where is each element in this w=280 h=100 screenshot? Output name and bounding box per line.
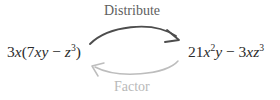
algebra-cycle-diagram: 3x(7xy − z3) 21x2y − 3xz3 Distribute Fac… (0, 0, 280, 100)
factor-arrow (92, 61, 178, 76)
distribute-arrow-curve (90, 27, 176, 44)
arrow-layer (0, 0, 280, 100)
factor-arrow-curve (95, 61, 178, 74)
distribute-arrow (90, 27, 179, 44)
